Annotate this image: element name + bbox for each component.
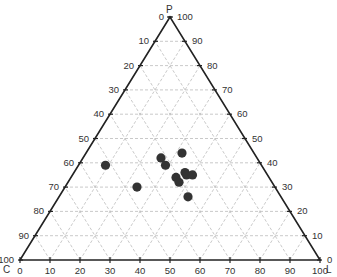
- tick-label-bottom: 40: [135, 265, 146, 276]
- data-point: [132, 183, 141, 192]
- tick-labels: 0001010102020203030304040405050506060607…: [0, 11, 332, 276]
- tick-label-left: 0: [159, 11, 164, 22]
- tick-label-right: 100: [177, 11, 193, 22]
- grid-line-c: [35, 236, 50, 260]
- ternary-plot: 0001010102020203030304040405050506060607…: [0, 0, 337, 277]
- tick-label-right: 70: [222, 84, 233, 95]
- tick-label-left: 30: [108, 84, 119, 95]
- data-point: [101, 161, 110, 170]
- tick-marks: [18, 17, 322, 263]
- tick-label-left: 20: [123, 60, 134, 71]
- tick-label-left: 40: [93, 108, 104, 119]
- tick-label-right: 10: [312, 230, 323, 241]
- tick-label-left: 10: [138, 35, 149, 46]
- tick-label-bottom: 80: [255, 265, 266, 276]
- grid-line-l: [290, 236, 305, 260]
- tick-label-left: 70: [48, 181, 59, 192]
- grid-line-c: [65, 187, 110, 260]
- grid-lines: [35, 41, 305, 260]
- vertex-label-bottom-left: C: [3, 264, 10, 275]
- tick-label-bottom: 70: [225, 265, 236, 276]
- grid-line-l: [230, 187, 275, 260]
- tick-label-bottom: 60: [195, 265, 206, 276]
- data-point: [174, 178, 183, 187]
- data-point: [188, 170, 197, 179]
- tick-label-right: 30: [282, 181, 293, 192]
- vertex-label-top: P: [166, 4, 173, 15]
- tick-label-left: 60: [63, 157, 74, 168]
- grid-line-l: [110, 90, 215, 260]
- tick-label-bottom: 30: [105, 265, 116, 276]
- tick-label-bottom: 20: [75, 265, 86, 276]
- tick-label-right: 80: [207, 60, 218, 71]
- tick-label-bottom: 90: [285, 265, 296, 276]
- tick-label-bottom: 50: [165, 265, 176, 276]
- tick-label-right: 60: [237, 108, 248, 119]
- data-point: [177, 148, 186, 157]
- data-point: [183, 192, 192, 201]
- tick-label-bottom: 0: [17, 265, 22, 276]
- tick-label-left: 90: [18, 230, 29, 241]
- tick-label-right: 20: [297, 205, 308, 216]
- tick-label-right: 40: [267, 157, 278, 168]
- vertex-label-bottom-right: L: [326, 264, 332, 275]
- grid-line-c: [155, 41, 290, 260]
- tick-label-left: 80: [33, 205, 44, 216]
- data-point: [161, 161, 170, 170]
- data-points: [101, 148, 197, 201]
- tick-label-right: 90: [192, 35, 203, 46]
- tick-label-bottom: 10: [45, 265, 56, 276]
- tick-label-right: 50: [252, 133, 263, 144]
- tick-label-left: 50: [78, 133, 89, 144]
- grid-line-l: [50, 41, 185, 260]
